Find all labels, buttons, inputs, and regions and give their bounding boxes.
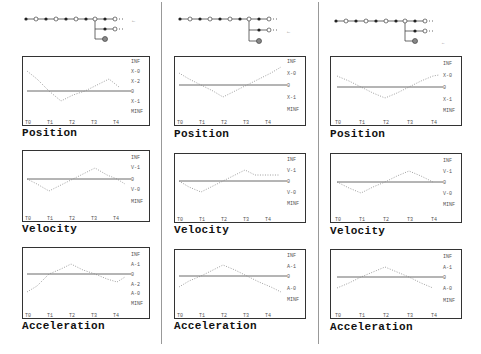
tick-t2: T2 <box>69 216 75 222</box>
column-3: ← INF X-0 0 X-1 MINF T0 T1 T2 T3 T4 Posi… <box>320 0 480 354</box>
label-zero: 0 <box>131 89 134 95</box>
chart-title-velocity: Velocity <box>174 224 229 236</box>
tick-t0: T0 <box>25 216 31 222</box>
tick-t0: T0 <box>177 120 183 126</box>
chart-velocity: INF V-1 0 V-0 MINF T0 T1 T2 T3 T4 <box>174 153 306 223</box>
label-v1: V-1 <box>131 165 140 171</box>
chart-title-acceleration: Acceleration <box>174 320 257 332</box>
label-v0: V-0 <box>131 187 140 193</box>
label-inf: INF <box>443 61 452 67</box>
state-tree-diagram: ← <box>320 0 480 50</box>
tick-t1: T1 <box>47 216 53 222</box>
label-v0: V-0 <box>287 190 296 196</box>
tick-t3: T3 <box>243 120 249 126</box>
tick-t1: T1 <box>199 120 205 126</box>
label-a0: A-0 <box>443 286 452 292</box>
tick-t4: T4 <box>265 313 271 319</box>
label-minf: MINF <box>443 108 455 114</box>
label-minf: MINF <box>443 298 455 304</box>
chart-velocity: INF V-1 0 V-0 MINF T0 T1 T2 T3 T4 <box>330 153 462 223</box>
label-minf: MINF <box>287 297 299 303</box>
tick-t3: T3 <box>407 120 413 126</box>
tick-t3: T3 <box>407 313 413 319</box>
label-x1: X-1 <box>287 95 296 101</box>
label-inf: INF <box>287 59 296 65</box>
column-1: ← INF X-0 X-2 0 X-1 MINF T0 T1 T2 T3 T4 … <box>4 0 164 354</box>
tick-t4: T4 <box>113 216 119 222</box>
label-zero: 0 <box>443 275 446 281</box>
tick-t3: T3 <box>91 216 97 222</box>
state-tree-diagram: ← <box>160 0 320 50</box>
label-a1: A-1 <box>287 264 296 270</box>
label-v0: V-0 <box>443 191 452 197</box>
label-x1: X-1 <box>443 97 452 103</box>
label-x2: X-2 <box>131 79 140 85</box>
tick-t1: T1 <box>47 313 53 319</box>
label-minf: MINF <box>131 199 143 205</box>
tick-t2: T2 <box>383 120 389 126</box>
label-inf: INF <box>287 253 296 259</box>
tick-t4: T4 <box>431 313 437 319</box>
label-zero: 0 <box>443 85 446 91</box>
arrow-icon: ← <box>287 29 290 35</box>
label-a0: A-0 <box>287 286 296 292</box>
chart-title-acceleration: Acceleration <box>330 321 413 333</box>
tick-t1: T1 <box>359 217 365 223</box>
label-minf: MINF <box>131 109 143 115</box>
tick-t0: T0 <box>335 217 341 223</box>
tick-t4: T4 <box>431 217 437 223</box>
tick-t4: T4 <box>265 120 271 126</box>
chart-title-velocity: Velocity <box>22 223 77 235</box>
arrow-icon: ← <box>442 41 445 45</box>
label-inf: INF <box>443 254 452 260</box>
label-zero: 0 <box>131 272 134 278</box>
label-a1: A-1 <box>443 265 452 271</box>
label-x0: X-0 <box>287 71 296 77</box>
tick-t0: T0 <box>25 120 31 126</box>
label-inf: INF <box>131 59 140 65</box>
label-minf: MINF <box>443 202 455 208</box>
chart-title-velocity: Velocity <box>330 225 385 237</box>
tick-t2: T2 <box>221 217 227 223</box>
tick-t1: T1 <box>359 120 365 126</box>
label-inf: INF <box>287 157 296 163</box>
label-inf: INF <box>443 158 452 164</box>
tick-t4: T4 <box>431 120 437 126</box>
chart-title-position: Position <box>22 127 77 139</box>
tick-t2: T2 <box>221 120 227 126</box>
label-x1: X-1 <box>131 99 140 105</box>
label-zero: 0 <box>287 179 290 185</box>
tick-t0: T0 <box>335 313 341 319</box>
tick-t3: T3 <box>407 217 413 223</box>
label-minf: MINF <box>287 201 299 207</box>
tick-t4: T4 <box>265 217 271 223</box>
label-zero: 0 <box>287 83 290 89</box>
tick-t0: T0 <box>177 217 183 223</box>
tick-t0: T0 <box>335 120 341 126</box>
tick-t1: T1 <box>47 120 53 126</box>
chart-acceleration: INF A-1 0 A-2 A-0 MINF T0 T1 T2 T3 T4 <box>22 247 150 319</box>
label-x0: X-0 <box>131 69 140 75</box>
chart-position: INF X-0 0 X-1 MINF T0 T1 T2 T3 T4 <box>330 56 462 126</box>
label-zero: 0 <box>131 177 134 183</box>
label-zero: 0 <box>443 180 446 186</box>
label-inf: INF <box>131 155 140 161</box>
chart-acceleration: INF A-1 0 A-0 MINF T0 T1 T2 T3 T4 <box>330 249 462 319</box>
tick-t1: T1 <box>199 217 205 223</box>
label-a0: A-0 <box>131 291 140 297</box>
tick-t3: T3 <box>91 120 97 126</box>
label-v1: V-1 <box>287 168 296 174</box>
chart-title-position: Position <box>330 128 385 140</box>
tick-t2: T2 <box>221 313 227 319</box>
chart-position: INF X-0 0 X-1 MINF T0 T1 T2 T3 T4 <box>174 56 306 126</box>
tick-t4: T4 <box>113 313 119 319</box>
tick-t3: T3 <box>91 313 97 319</box>
tick-t2: T2 <box>383 217 389 223</box>
chart-velocity: INF V-1 0 V-0 MINF T0 T1 T2 T3 T4 <box>22 150 150 222</box>
state-tree-diagram: ← <box>4 0 164 50</box>
tick-t0: T0 <box>25 313 31 319</box>
label-minf: MINF <box>287 107 299 113</box>
tick-t1: T1 <box>359 313 365 319</box>
label-a2: A-2 <box>131 282 140 288</box>
label-x0: X-0 <box>443 73 452 79</box>
